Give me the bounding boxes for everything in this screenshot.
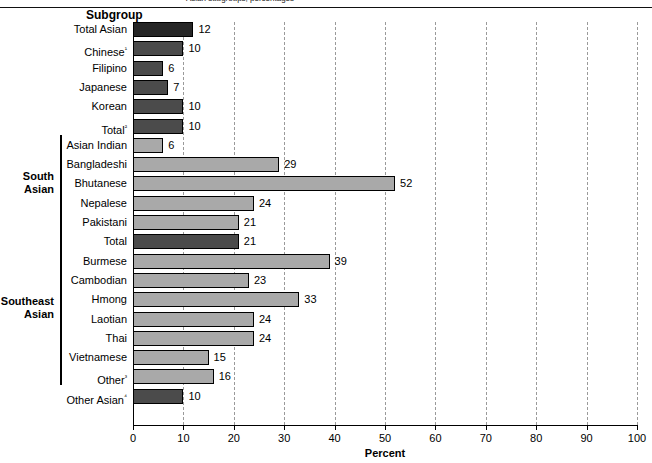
- bar-value-label: 24: [259, 194, 271, 213]
- category-label: Vietnamese: [0, 350, 127, 365]
- bar-value-label: 15: [214, 348, 226, 367]
- bar-value-label: 39: [335, 252, 347, 271]
- x-tick-40: [335, 425, 336, 430]
- bar-row: 33: [133, 292, 637, 311]
- gridline-100: [637, 22, 639, 425]
- x-tick-label: 40: [328, 432, 340, 444]
- bar: [133, 80, 168, 95]
- bar-value-label: 7: [173, 78, 179, 97]
- bar: [133, 273, 249, 288]
- bar-row: 39: [133, 254, 637, 273]
- bar-value-label: 21: [244, 232, 256, 251]
- bar-row: 21: [133, 215, 637, 234]
- bar-value-label: 10: [188, 97, 200, 116]
- x-tick-70: [486, 425, 487, 430]
- bar: [133, 215, 239, 230]
- x-tick-0: [133, 425, 134, 430]
- bar-row: 10: [133, 119, 637, 138]
- bar-row: 15: [133, 350, 637, 369]
- bar-value-label: 24: [259, 329, 271, 348]
- category-label: Pakistani: [0, 215, 127, 230]
- category-label: Other Asian⁴: [0, 389, 127, 408]
- bar: [133, 292, 299, 307]
- bar-value-label: 24: [259, 310, 271, 329]
- x-tick-label: 90: [580, 432, 592, 444]
- cropped-caption-text: Asian subgroups, percentages: [186, 0, 294, 3]
- bar-value-label: 10: [188, 39, 200, 58]
- bar-row: 7: [133, 80, 637, 99]
- x-tick-60: [435, 425, 436, 430]
- x-tick-label: 0: [130, 432, 136, 444]
- bar: [133, 22, 193, 37]
- bar-row: 29: [133, 157, 637, 176]
- category-label: Total²: [0, 119, 127, 138]
- bar: [133, 138, 163, 153]
- bar-row: 6: [133, 61, 637, 80]
- bar: [133, 234, 239, 249]
- bar: [133, 157, 279, 172]
- category-label: Cambodian: [0, 273, 127, 288]
- category-label: Asian Indian: [0, 138, 127, 153]
- bar: [133, 196, 254, 211]
- x-tick-30: [284, 425, 285, 430]
- bar: [133, 254, 330, 269]
- bar-row: 10: [133, 41, 637, 60]
- category-label: Korean: [0, 99, 127, 114]
- category-label: Japanese: [0, 80, 127, 95]
- x-tick-10: [183, 425, 184, 430]
- x-tick-label: 100: [628, 432, 646, 444]
- category-label: Bangladeshi: [0, 157, 127, 172]
- bar-value-label: 12: [198, 20, 210, 39]
- category-label: Total: [0, 234, 127, 249]
- bar-row: 52: [133, 176, 637, 195]
- bar: [133, 99, 183, 114]
- category-label: Bhutanese: [0, 176, 127, 191]
- bar: [133, 61, 163, 76]
- bar-value-label: 10: [188, 387, 200, 406]
- category-axis-labels: Total AsianChinese¹FilipinoJapaneseKorea…: [0, 22, 127, 425]
- bar-row: 6: [133, 138, 637, 157]
- bar-value-label: 33: [304, 290, 316, 309]
- x-axis-title: Percent: [133, 447, 637, 459]
- x-tick-50: [385, 425, 386, 430]
- bars-area: 1210671010629522421213923332424151610: [133, 22, 637, 425]
- bar-row: 16: [133, 369, 637, 388]
- bar: [133, 176, 395, 191]
- x-tick-20: [234, 425, 235, 430]
- category-label: Nepalese: [0, 196, 127, 211]
- bar-row: 24: [133, 196, 637, 215]
- x-tick-label: 30: [278, 432, 290, 444]
- bar: [133, 312, 254, 327]
- bar-value-label: 6: [168, 136, 174, 155]
- bar: [133, 331, 254, 346]
- bar-row: 10: [133, 389, 637, 408]
- category-label: Filipino: [0, 61, 127, 76]
- bar-row: 24: [133, 312, 637, 331]
- bar-row: 10: [133, 99, 637, 118]
- bar-value-label: 23: [254, 271, 266, 290]
- category-label: Other³: [0, 369, 127, 388]
- bar-row: 24: [133, 331, 637, 350]
- x-tick-label: 20: [228, 432, 240, 444]
- bar-value-label: 6: [168, 59, 174, 78]
- category-label: Thai: [0, 331, 127, 346]
- bar: [133, 350, 209, 365]
- category-label: Total Asian: [0, 22, 127, 37]
- category-label: Chinese¹: [0, 41, 127, 60]
- category-label: Laotian: [0, 312, 127, 327]
- cropped-caption-sliver: Asian subgroups, percentages: [0, 0, 652, 7]
- x-tick-label: 50: [379, 432, 391, 444]
- bar-value-label: 10: [188, 117, 200, 136]
- x-tick-label: 70: [480, 432, 492, 444]
- subgroup-column-header: Subgroup: [86, 8, 143, 22]
- x-tick-label: 10: [177, 432, 189, 444]
- bar: [133, 119, 183, 134]
- bar-row: 12: [133, 22, 637, 41]
- x-tick-label: 60: [429, 432, 441, 444]
- bar-value-label: 29: [284, 155, 296, 174]
- bar-row: 21: [133, 234, 637, 253]
- x-tick-90: [587, 425, 588, 430]
- bar-value-label: 16: [219, 367, 231, 386]
- bar-value-label: 52: [400, 174, 412, 193]
- x-tick-100: [637, 425, 638, 430]
